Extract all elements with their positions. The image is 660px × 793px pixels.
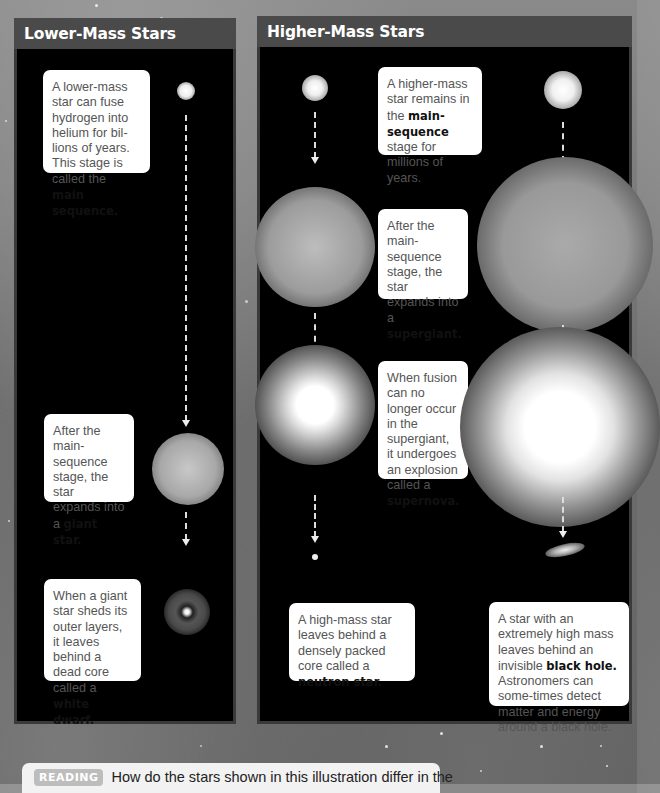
- background-star: [385, 745, 388, 748]
- reading-question: How do the stars shown in this illustrat…: [111, 769, 452, 785]
- reading-check-box: READING How do the stars shown in this i…: [22, 763, 440, 793]
- callout-term: main sequence.: [52, 187, 118, 218]
- main-sequence-star-icon: [302, 75, 328, 101]
- background-star: [8, 520, 10, 522]
- white-dwarf-icon: [164, 589, 210, 635]
- callout-black-hole: A star with an extremely high mass leave…: [489, 602, 629, 706]
- callout-term: neutron star.: [298, 674, 382, 689]
- background-star: [606, 765, 608, 767]
- callout-text: Astronomers can some-times detect matter…: [498, 674, 611, 734]
- higher-mass-title: Higher-Mass Stars: [257, 16, 632, 47]
- background-star: [440, 732, 443, 735]
- callout-text: A high-mass star leaves behind a densely…: [298, 613, 392, 673]
- callout-text: After the main-sequence stage, the star …: [53, 424, 124, 531]
- supergiant-icon: [477, 157, 653, 333]
- arrow-down-icon: [562, 122, 564, 162]
- callout-term: black hole.: [546, 658, 617, 673]
- callout-supernova: When fusion can no longer occur in the s…: [378, 361, 468, 479]
- background-star: [95, 4, 98, 7]
- callout-term: white dwarf.: [53, 696, 94, 727]
- supergiant-icon: [255, 187, 375, 307]
- callout-text: When fusion can no longer occur in the s…: [387, 371, 458, 492]
- arrow-down-icon: [314, 495, 316, 537]
- callout-term: supernova.: [387, 493, 460, 508]
- callout-white-dwarf: When a giant star sheds its outer layers…: [44, 579, 141, 681]
- supernova-icon: [255, 345, 375, 465]
- callout-term: giant star.: [53, 516, 97, 547]
- callout-term: supergiant.: [387, 326, 462, 341]
- callout-main-sequence: A lower-mass star can fuse hydrogen into…: [43, 70, 150, 173]
- arrow-down-icon: [562, 497, 564, 532]
- main-sequence-star-icon: [544, 71, 582, 109]
- callout-supergiant: After the main-sequence stage, the star …: [378, 209, 468, 299]
- callout-text: stage for millions of years.: [387, 140, 443, 185]
- reading-tag: READING: [34, 769, 103, 786]
- main-sequence-star-icon: [177, 82, 195, 100]
- higher-mass-panel: Higher-Mass Stars A higher-mass star rem…: [260, 47, 629, 721]
- callout-text: When a giant star sheds its outer layers…: [53, 589, 127, 695]
- supernova-icon: [460, 327, 660, 527]
- callout-giant-star: After the main-sequence stage, the star …: [44, 414, 134, 502]
- background-star: [600, 745, 602, 747]
- background-star: [540, 745, 543, 748]
- lower-mass-title: Lower-Mass Stars: [14, 18, 236, 49]
- background-star: [480, 770, 482, 772]
- neutron-star-icon: [312, 554, 318, 560]
- background-star: [245, 300, 248, 303]
- background-star: [5, 120, 7, 122]
- arrow-down-icon: [185, 115, 187, 421]
- giant-star-icon: [152, 433, 224, 505]
- background-star: [200, 745, 202, 747]
- callout-text: A lower-mass star can fuse hydrogen into…: [52, 80, 130, 186]
- callout-neutron-star: A high-mass star leaves behind a densely…: [289, 603, 415, 681]
- black-hole-icon: [544, 540, 586, 560]
- lower-mass-panel: Lower-Mass Stars A lower-mass star can f…: [17, 49, 233, 721]
- callout-text: After the main-sequence stage, the star …: [387, 219, 458, 325]
- arrow-down-icon: [314, 112, 316, 158]
- arrow-down-icon: [185, 512, 187, 540]
- callout-main-sequence: A higher-mass star remains in the main-s…: [378, 67, 482, 155]
